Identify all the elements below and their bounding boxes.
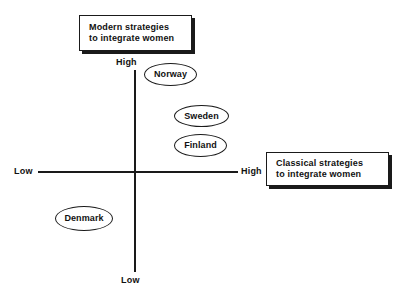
callout-line-1: Modern strategies bbox=[89, 22, 191, 34]
callout-line-1: Classical strategies bbox=[276, 158, 388, 170]
horizontal-axis-low-label: Low bbox=[14, 167, 33, 176]
data-point-denmark: Denmark bbox=[55, 206, 113, 231]
vertical-axis-high-label: High bbox=[116, 58, 137, 67]
vertical-axis-low-label: Low bbox=[121, 276, 140, 285]
callout-classical-strategies: Classical strategies to integrate women bbox=[266, 152, 389, 186]
data-point-norway: Norway bbox=[144, 63, 197, 86]
data-point-label: Sweden bbox=[184, 112, 219, 121]
data-point-label: Norway bbox=[154, 70, 187, 79]
data-point-sweden: Sweden bbox=[174, 105, 229, 127]
data-point-label: Denmark bbox=[64, 214, 103, 223]
horizontal-axis-line bbox=[38, 171, 238, 173]
callout-line-2: to integrate women bbox=[276, 169, 388, 181]
horizontal-axis-high-label: High bbox=[241, 167, 262, 176]
data-point-finland: Finland bbox=[174, 134, 227, 157]
callout-line-2: to integrate women bbox=[89, 33, 191, 45]
quadrant-diagram-canvas: High Low Low High Norway Sweden Finland … bbox=[0, 0, 397, 299]
callout-modern-strategies: Modern strategies to integrate women bbox=[79, 15, 192, 51]
data-point-label: Finland bbox=[184, 141, 217, 150]
